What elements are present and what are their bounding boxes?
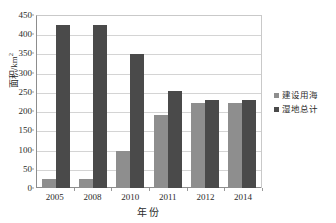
bar <box>79 179 93 188</box>
bar <box>116 151 130 188</box>
legend: 建设用海湿地总计 <box>274 88 336 116</box>
y-tick-label: 200 <box>19 107 33 116</box>
y-tick-label: 250 <box>19 87 33 96</box>
y-tick-mark <box>31 111 34 112</box>
bar-group <box>226 16 259 188</box>
legend-swatch <box>274 107 279 112</box>
y-tick-label: 350 <box>19 49 33 58</box>
bar <box>93 25 107 188</box>
plot-area <box>36 15 262 188</box>
bar-group <box>151 16 184 188</box>
bar <box>228 103 242 188</box>
y-tick-label: 300 <box>19 68 33 77</box>
x-tick-label: 2010 <box>114 191 147 205</box>
bar <box>56 25 70 188</box>
y-tick-mark <box>31 72 34 73</box>
bar <box>42 179 56 188</box>
bar <box>154 115 168 188</box>
bar <box>168 91 182 188</box>
bar <box>130 54 144 188</box>
y-tick-mark <box>31 168 34 169</box>
y-tick-mark <box>31 15 34 16</box>
bar <box>242 100 256 188</box>
bar-group <box>114 16 147 188</box>
x-axis-title: 年份 <box>36 204 262 219</box>
legend-item: 湿地总计 <box>274 102 336 116</box>
bar-chart: 面积/km2 450400350300250200150100500 20052… <box>0 0 336 223</box>
legend-item: 建设用海 <box>274 88 336 102</box>
x-tick-label: 2014 <box>227 191 260 205</box>
x-tick-label: 2005 <box>38 191 71 205</box>
y-tick-mark <box>31 53 34 54</box>
legend-swatch <box>274 93 279 98</box>
x-tick-label: 2008 <box>76 191 109 205</box>
y-tick-mark <box>31 34 34 35</box>
y-tick-mark <box>31 188 34 189</box>
bars-layer <box>37 16 261 188</box>
bar-group <box>188 16 221 188</box>
y-tick-label: 400 <box>19 30 33 39</box>
bar <box>191 103 205 188</box>
x-axis-labels: 200520082010201120122014 <box>36 191 262 205</box>
y-tick-label: 150 <box>19 126 33 135</box>
y-tick-label: 450 <box>19 11 33 20</box>
legend-label: 建设用海 <box>282 90 318 100</box>
y-tick-mark <box>31 149 34 150</box>
bar-group <box>39 16 72 188</box>
y-tick-mark <box>31 91 34 92</box>
x-tick-label: 2011 <box>151 191 184 205</box>
x-tick-mark <box>262 188 263 191</box>
y-tick-label: 100 <box>19 145 33 154</box>
y-axis-ticks: 450400350300250200150100500 <box>0 15 34 188</box>
bar <box>205 100 219 188</box>
y-tick-mark <box>31 130 34 131</box>
x-tick-label: 2012 <box>189 191 222 205</box>
legend-label: 湿地总计 <box>282 104 318 114</box>
bar-group <box>76 16 109 188</box>
